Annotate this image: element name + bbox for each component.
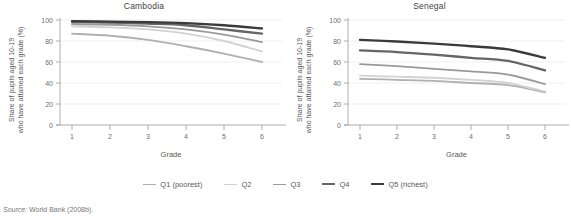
series-lines-senegal [360, 40, 545, 92]
gridlines-senegal [348, 20, 565, 104]
legend-item-2[interactable]: Q2 [224, 180, 251, 189]
series-lines-cambodia [72, 21, 262, 62]
svg-text:2: 2 [395, 133, 399, 140]
svg-text:3: 3 [432, 133, 436, 140]
svg-text:4: 4 [184, 133, 188, 140]
figure: Cambodia Share of pupils aged 10-19 who … [0, 0, 571, 224]
svg-text:80: 80 [45, 38, 53, 45]
chart-svg-cambodia: 100 80 60 40 20 0 1 2 3 4 5 6 [0, 0, 288, 150]
svg-text:100: 100 [329, 17, 341, 24]
panel-cambodia: Cambodia Share of pupils aged 10-19 who … [0, 0, 288, 172]
svg-text:100: 100 [41, 17, 53, 24]
series-line-senegal-q4 [360, 50, 545, 70]
panel-container: Cambodia Share of pupils aged 10-19 who … [0, 0, 571, 172]
svg-text:80: 80 [333, 38, 341, 45]
series-line-cambodia-q1 [72, 34, 262, 62]
svg-text:1: 1 [358, 133, 362, 140]
legend-swatch-icon [224, 184, 237, 185]
series-line-senegal-q2 [360, 76, 545, 92]
legend-item-4[interactable]: Q4 [322, 180, 349, 189]
x-tick-labels-cambodia: 1 2 3 4 5 6 [70, 133, 264, 140]
chart-svg-senegal: 100 80 60 40 20 0 1 2 3 4 5 6 [288, 0, 571, 150]
x-tick-labels-senegal: 1 2 3 4 5 6 [358, 133, 547, 140]
legend-label: Q3 [290, 180, 300, 189]
svg-text:0: 0 [49, 122, 53, 129]
svg-text:5: 5 [506, 133, 510, 140]
axes-senegal [344, 18, 569, 130]
svg-text:60: 60 [333, 59, 341, 66]
y-tick-labels-senegal: 100 80 60 40 20 0 [329, 17, 341, 129]
source-prefix: Source: [3, 206, 27, 213]
legend-label: Q5 (richest) [388, 180, 427, 189]
y-tick-labels-cambodia: 100 80 60 40 20 0 [41, 17, 53, 129]
legend-item-1[interactable]: Q1 (poorest) [143, 180, 202, 189]
svg-text:40: 40 [333, 80, 341, 87]
svg-text:6: 6 [260, 133, 264, 140]
svg-text:3: 3 [146, 133, 150, 140]
legend-item-3[interactable]: Q3 [273, 180, 300, 189]
legend-swatch-icon [273, 184, 286, 185]
plot-area-cambodia: 100 80 60 40 20 0 1 2 3 4 5 6 [0, 0, 288, 150]
x-axis-label-cambodia: Grade [60, 150, 282, 159]
source-text: World Bank (2008b). [29, 206, 93, 213]
legend-swatch-icon [371, 183, 384, 185]
svg-text:4: 4 [469, 133, 473, 140]
source-note: Source: World Bank (2008b). [3, 206, 93, 213]
svg-text:20: 20 [45, 101, 53, 108]
svg-text:60: 60 [45, 59, 53, 66]
svg-text:1: 1 [70, 133, 74, 140]
legend-label: Q1 (poorest) [160, 180, 202, 189]
legend-swatch-icon [143, 184, 156, 185]
plot-area-senegal: 100 80 60 40 20 0 1 2 3 4 5 6 [288, 0, 571, 150]
legend-item-5[interactable]: Q5 (richest) [371, 180, 427, 189]
svg-text:40: 40 [45, 80, 53, 87]
svg-text:0: 0 [337, 122, 341, 129]
svg-text:20: 20 [333, 101, 341, 108]
svg-text:6: 6 [543, 133, 547, 140]
svg-text:5: 5 [222, 133, 226, 140]
legend-swatch-icon [322, 183, 335, 185]
legend-label: Q2 [241, 180, 251, 189]
panel-senegal: Senegal Share of pupils aged 10-19 who h… [288, 0, 571, 172]
chart-legend: Q1 (poorest)Q2Q3Q4Q5 (richest) [0, 176, 571, 192]
svg-text:2: 2 [108, 133, 112, 140]
legend-label: Q4 [339, 180, 349, 189]
x-axis-label-senegal: Grade [348, 150, 565, 159]
